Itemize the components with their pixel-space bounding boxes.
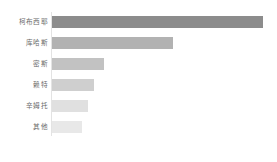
horizontal-bar-chart: 柯布西耶 库哈斯 密斯 赖特 辛姆托 [0, 0, 277, 162]
bar-track [52, 37, 173, 49]
bar-segment [52, 16, 263, 28]
bar-row: 其他 [0, 116, 277, 137]
category-label: 库哈斯 [1, 38, 48, 46]
bar-track [52, 100, 88, 112]
bar-segment [52, 121, 82, 133]
bar-segment [52, 79, 94, 91]
bar-track [52, 58, 104, 70]
bar-track [52, 121, 82, 133]
bar-segment [52, 58, 104, 70]
category-label: 辛姆托 [1, 101, 48, 109]
plot-area: 柯布西耶 库哈斯 密斯 赖特 辛姆托 [0, 0, 277, 162]
category-label: 其他 [1, 122, 48, 130]
bar-row: 柯布西耶 [0, 11, 277, 32]
category-label: 密斯 [1, 59, 48, 67]
bar-row: 密斯 [0, 53, 277, 74]
bar-track [52, 79, 94, 91]
bar-row: 赖特 [0, 74, 277, 95]
category-label: 赖特 [1, 80, 48, 88]
category-label: 柯布西耶 [1, 17, 48, 25]
bar-track [52, 16, 263, 28]
bar-segment [52, 37, 173, 49]
bar-row: 库哈斯 [0, 32, 277, 53]
bar-segment [52, 100, 88, 112]
bar-row: 辛姆托 [0, 95, 277, 116]
